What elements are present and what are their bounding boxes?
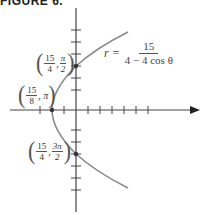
- point-vertex: [50, 108, 54, 112]
- equation-label: r = 15 4 − 4 cos θ: [104, 40, 174, 67]
- point-bottom: [74, 152, 78, 156]
- equation-denominator: 4 − 4 cos θ: [125, 54, 173, 67]
- axis-arrow-icon: [190, 106, 200, 114]
- polar-graph: [0, 0, 204, 214]
- label-vertex-point: ( 158, π ): [18, 84, 56, 106]
- equation-fraction: 15 4 − 4 cos θ: [125, 40, 173, 67]
- equation-numerator: 15: [139, 40, 158, 54]
- label-top-point: ( 154, π2 ): [36, 52, 75, 74]
- axes: [10, 8, 194, 212]
- label-bottom-point: ( 154, 3π2 ): [28, 140, 71, 162]
- equation-lhs: r =: [104, 46, 120, 61]
